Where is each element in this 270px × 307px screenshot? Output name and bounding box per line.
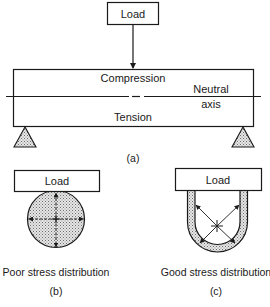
load-box-a: Load [108, 3, 159, 25]
figure-c-u-shape: Load Good stress distribution (c) [161, 169, 270, 298]
good-distribution-label: Good stress distribution [161, 266, 270, 278]
load-label-c: Load [206, 174, 230, 186]
axis-label: axis [201, 98, 221, 110]
tension-label: Tension [114, 111, 152, 123]
neutral-label: Neutral [193, 83, 228, 95]
right-support-icon [232, 127, 254, 147]
load-label-a: Load [121, 8, 145, 20]
figure-b-circle: Load Poor stress distribution (b) [3, 171, 110, 298]
stress-distribution-diagram: Load Compression Neutral axis Tension (a… [0, 0, 270, 307]
figure-a-beam: Load Compression Neutral axis Tension (a… [6, 3, 261, 165]
caption-b: (b) [50, 285, 63, 297]
caption-a: (a) [127, 152, 140, 164]
poor-distribution-label: Poor stress distribution [3, 266, 110, 278]
compression-label: Compression [101, 72, 166, 84]
load-label-b: Load [45, 175, 69, 187]
caption-c: (c) [210, 285, 222, 297]
left-support-icon [14, 127, 36, 147]
